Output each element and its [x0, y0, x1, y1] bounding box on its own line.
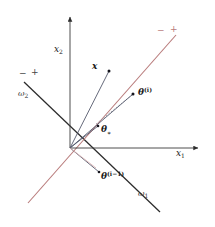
theta-i-vector-point	[132, 93, 135, 96]
origin-red-stub	[70, 148, 96, 168]
omega1-positive-sign: +	[31, 67, 39, 77]
x-vector-point	[108, 70, 111, 73]
x2-axis-label: x2	[54, 44, 63, 55]
omega2-negative-sign: −	[157, 25, 165, 35]
omega1-negative-sign: −	[19, 68, 27, 78]
omega-1-label: ω1	[138, 189, 148, 199]
theta-i-label: θ(i)	[138, 86, 152, 98]
perceptron-geometry-diagram: x1 x2 ω1 ω2 − + − + x θ∗ θ(i) θ(i−1)	[0, 0, 215, 227]
theta-star-label: θ∗	[101, 124, 111, 136]
theta-i-vector-line	[70, 94, 133, 148]
x1-axis-label: x1	[176, 148, 185, 159]
theta-i-minus-1-label: θ(i−1)	[101, 170, 124, 182]
x-vector-line	[70, 71, 109, 148]
figure-root: x1 x2 ω1 ω2 − + − + x θ∗ θ(i) θ(i−1)	[0, 0, 215, 227]
theta-i-minus-1-vector-point	[98, 171, 101, 174]
x-vector-label: x	[91, 61, 98, 71]
omega-2-label: ω2	[18, 89, 29, 99]
omega2-positive-sign: +	[170, 24, 178, 34]
